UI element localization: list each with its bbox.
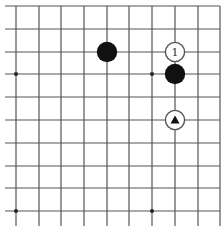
white-stone (165, 110, 184, 129)
stones: 1 (97, 42, 185, 130)
grid-lines (5, 6, 220, 226)
black-stone (165, 64, 185, 84)
star-point (14, 72, 18, 76)
move-number: 1 (172, 46, 179, 59)
black-stone (97, 42, 117, 62)
star-point (150, 209, 154, 213)
white-stone: 1 (165, 42, 184, 61)
star-point (14, 209, 18, 213)
go-board: 1 (0, 0, 224, 229)
star-point (150, 72, 154, 76)
